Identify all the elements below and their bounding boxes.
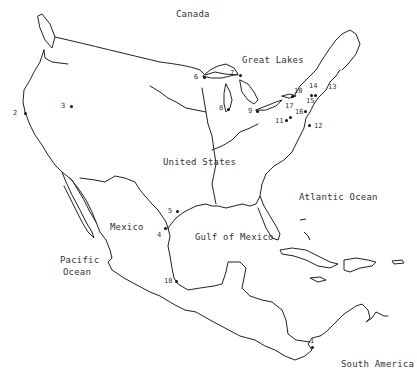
point-label-12: 12 — [314, 123, 322, 130]
hispaniola — [344, 258, 376, 272]
region-label-south-america: South America — [341, 360, 414, 369]
point-marker-15 — [314, 94, 317, 97]
point-marker-16 — [304, 110, 307, 113]
north-america-map: Canada Great Lakes United States Atlanti… — [0, 0, 417, 388]
point-label-7: 7 — [230, 70, 234, 77]
point-marker-1 — [311, 346, 314, 349]
baja-california — [62, 172, 94, 238]
point-marker-12 — [308, 124, 311, 127]
point-marker-2 — [24, 112, 27, 115]
point-label-13: 13 — [328, 84, 336, 91]
missouri-river — [150, 86, 206, 112]
mississippi-river — [202, 88, 216, 204]
point-label-5: 5 — [168, 208, 172, 215]
point-label-9: 9 — [248, 108, 252, 115]
region-label-great-lakes: Great Lakes — [242, 56, 304, 65]
lake-erie — [256, 100, 282, 110]
region-label-gulf-of-mexico: Gulf of Mexico — [195, 233, 274, 242]
point-label-6: 6 — [194, 74, 198, 81]
us-west-coast — [23, 50, 320, 360]
point-label-4: 4 — [157, 232, 161, 239]
jamaica — [310, 277, 326, 282]
point-label-2: 2 — [13, 110, 17, 117]
bahamas — [300, 219, 310, 240]
point-label-15: 15 — [306, 98, 314, 105]
point-marker-11 — [285, 119, 288, 122]
point-label-10: 10 — [294, 88, 302, 95]
ohio-river — [212, 124, 258, 150]
point-label-14: 14 — [309, 83, 317, 90]
cuba — [280, 248, 338, 268]
region-label-pacific: Pacific — [60, 256, 99, 265]
point-label-18: 18 — [164, 278, 172, 285]
columbia-river — [44, 50, 68, 64]
point-marker-7 — [239, 74, 242, 77]
point-marker-17 — [289, 116, 292, 119]
point-marker-9 — [256, 110, 259, 113]
point-label-16: 16 — [295, 109, 303, 116]
region-label-mexico: Mexico — [110, 223, 144, 232]
puerto-rico — [392, 260, 404, 264]
point-label-11: 11 — [275, 118, 283, 125]
point-label-3: 3 — [61, 103, 65, 110]
point-label-8: 8 — [219, 105, 223, 112]
point-marker-8 — [227, 108, 230, 111]
point-label-17: 17 — [285, 103, 293, 110]
point-marker-4 — [164, 227, 167, 230]
south-america-coast — [320, 304, 388, 336]
point-marker-3 — [70, 105, 73, 108]
point-label-1: 1 — [310, 338, 314, 345]
lake-huron — [240, 80, 258, 104]
point-marker-5 — [176, 210, 179, 213]
us-mexico-border — [80, 176, 168, 228]
point-marker-10 — [291, 95, 294, 98]
gulf-coast — [168, 228, 310, 342]
region-label-united-states: United States — [163, 158, 236, 167]
region-label-canada: Canada — [176, 10, 210, 19]
point-marker-6 — [203, 76, 206, 79]
pacific-northwest-coast — [38, 14, 55, 48]
region-label-atlantic-ocean: Atlantic Ocean — [299, 193, 378, 202]
region-label-ocean: Ocean — [63, 268, 91, 277]
st-lawrence-river — [294, 30, 360, 96]
point-marker-18 — [175, 280, 178, 283]
